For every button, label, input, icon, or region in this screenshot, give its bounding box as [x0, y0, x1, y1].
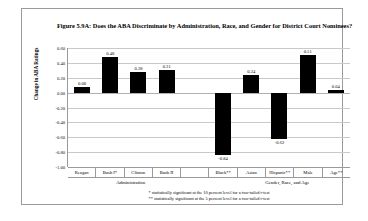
footnote-two-star: ** statistically significant at the 5 pe…	[68, 196, 350, 202]
category-label: Bush I*	[96, 168, 124, 177]
bar-value-label: 0.51	[304, 49, 312, 54]
category-label: Age**	[323, 168, 350, 177]
bar[interactable]	[300, 55, 316, 93]
bar[interactable]	[271, 93, 287, 139]
category-label: Hispanic**	[266, 168, 294, 177]
y-tick-label: -0.40	[55, 120, 65, 125]
bar-slot: 0.24	[237, 48, 265, 167]
category-label: Asian	[238, 168, 266, 177]
figure-frame: Figure 5.9A: Does the ABA Discriminate b…	[21, 8, 343, 205]
bar-value-label: 0.04	[332, 84, 340, 89]
category-axis: ReaganBush I*ClintonBush IIBlack**AsianH…	[68, 167, 350, 178]
group-label-spacer	[193, 178, 224, 187]
group-label-administration: Administration	[68, 178, 193, 187]
bar-slot: 0.48	[96, 48, 124, 167]
bar-value-label: 0.08	[78, 81, 86, 86]
plot-area: 0.080.480.280.31-0.840.24-0.620.510.04	[68, 48, 350, 167]
category-spacer	[181, 168, 209, 177]
group-axis: Administration Gender, Race, and Age	[68, 178, 350, 187]
bar[interactable]	[102, 57, 118, 93]
category-label: Bush II	[153, 168, 181, 177]
category-label: Black**	[209, 168, 237, 177]
y-axis-ticks: 0.600.400.200.00-0.20-0.40-0.60-0.80-1.0…	[40, 48, 65, 167]
category-label: Reagan	[68, 168, 96, 177]
y-tick-label: 0.40	[57, 60, 65, 65]
bar-slot: 0.31	[153, 48, 181, 167]
y-tick-label: 0.60	[57, 46, 65, 51]
y-tick-label: -0.80	[55, 150, 65, 155]
bar-value-label: 0.28	[134, 66, 142, 71]
chart-title: Figure 5.9A: Does the ABA Discriminate b…	[52, 22, 357, 30]
category-label: Male	[294, 168, 322, 177]
y-tick-label: 0.00	[57, 90, 65, 95]
bar[interactable]	[74, 87, 90, 93]
bar[interactable]	[215, 93, 231, 155]
bar-value-label: -0.84	[218, 156, 228, 161]
bar-value-label: 0.24	[247, 69, 255, 74]
bar-slot: 0.51	[294, 48, 322, 167]
bar-value-label: 0.31	[163, 64, 171, 69]
y-tick-label: -0.20	[55, 105, 65, 110]
bar[interactable]	[243, 75, 259, 93]
group-label-gender-race-age: Gender, Race, and Age	[225, 178, 350, 187]
bar[interactable]	[159, 70, 175, 93]
footnotes: * statistically significant at the 10 pe…	[68, 190, 350, 202]
bar-slot: 0.08	[68, 48, 96, 167]
y-axis-label: Change in ABA Ratings	[33, 28, 39, 120]
bar-slot	[181, 48, 209, 167]
bar[interactable]	[328, 90, 344, 93]
bar-slot: 0.28	[124, 48, 152, 167]
y-tick-label: -0.60	[55, 135, 65, 140]
y-tick-label: 0.20	[57, 75, 65, 80]
bar-value-label: 0.48	[106, 51, 114, 56]
bar-slot: -0.62	[265, 48, 293, 167]
bar-slot: 0.04	[322, 48, 350, 167]
y-tick-label: -1.00	[55, 165, 65, 170]
category-label: Clinton	[125, 168, 153, 177]
bar-slot: -0.84	[209, 48, 237, 167]
bar-value-label: -0.62	[275, 140, 285, 145]
bar[interactable]	[130, 72, 146, 93]
